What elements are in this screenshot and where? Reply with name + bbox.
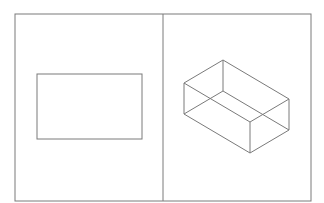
front-view-rectangle [37,74,142,139]
front-view-panel [37,74,142,139]
isometric-view-panel [184,60,289,153]
box-edge-bottom-right [250,130,289,153]
drawing-canvas [0,0,324,203]
box-edge-hidden-back-right [223,91,289,130]
box-edge-bottom-left [184,114,250,153]
box-top-face [184,60,289,122]
